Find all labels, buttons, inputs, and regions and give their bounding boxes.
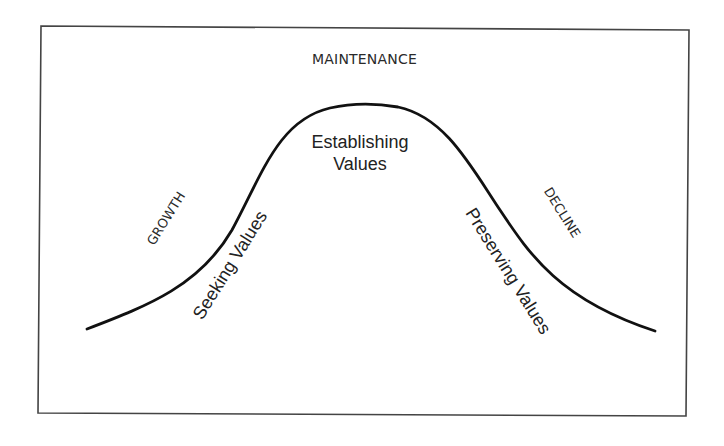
- establishing-values-label: Establishing Values: [310, 132, 410, 175]
- lifecycle-diagram: MAINTENANCE Establishing Values GROWTH S…: [0, 0, 724, 446]
- maintenance-label: MAINTENANCE: [312, 52, 417, 66]
- establishing-values-line2: Values: [310, 154, 410, 176]
- establishing-values-line1: Establishing: [310, 132, 410, 154]
- diagram-border: [38, 26, 689, 416]
